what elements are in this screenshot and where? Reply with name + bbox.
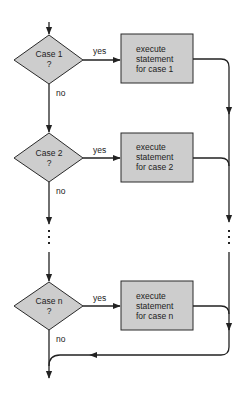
decision-case-1: Case 1 ? <box>14 35 83 84</box>
right-ellipsis <box>228 230 230 244</box>
process-line: statement <box>136 54 174 64</box>
merge-path-2 <box>193 158 229 166</box>
process-line: execute <box>136 291 166 301</box>
process-case-2: execute statement for case 2 <box>121 133 193 182</box>
merge-path-1 <box>193 59 229 114</box>
no-label: no <box>56 186 66 196</box>
decision-case-n: Case n ? <box>14 282 83 330</box>
process-line: for case n <box>136 311 174 321</box>
no-label: no <box>56 334 66 344</box>
process-case-n: execute statement for case n <box>121 281 193 330</box>
process-line: execute <box>136 44 166 54</box>
decision-question-mark: ? <box>47 158 52 168</box>
decision-case-2: Case 2 ? <box>14 133 83 182</box>
yes-label: yes <box>93 46 106 56</box>
flowchart-canvas: Case 1 ? yes execute statement for case … <box>0 0 243 398</box>
left-ellipsis <box>48 230 50 244</box>
decision-question-mark: ? <box>47 306 52 316</box>
yes-label: yes <box>93 145 106 155</box>
process-line: for case 1 <box>136 64 174 74</box>
merge-path-n <box>193 306 229 314</box>
process-case-1: execute statement for case 1 <box>121 34 193 83</box>
yes-label: yes <box>93 293 106 303</box>
process-line: execute <box>136 142 166 152</box>
return-path-tail <box>49 355 90 366</box>
decision-label: Case 2 <box>36 148 63 158</box>
return-path <box>90 328 229 355</box>
no-label: no <box>56 88 66 98</box>
decision-question-mark: ? <box>47 59 52 69</box>
process-line: statement <box>136 152 174 162</box>
process-line: statement <box>136 301 174 311</box>
decision-label: Case 1 <box>36 49 63 59</box>
decision-label: Case n <box>36 296 63 306</box>
process-line: for case 2 <box>136 162 174 172</box>
